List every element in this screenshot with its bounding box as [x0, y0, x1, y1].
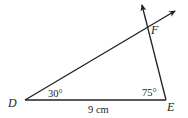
angle-label-e: 75°: [142, 87, 157, 98]
side-length-label-de: 9 cm: [88, 104, 109, 115]
vertex-label-d: D: [7, 96, 17, 110]
ray-ef: [142, 5, 166, 100]
vertex-label-e: E: [166, 100, 175, 114]
triangle-diagram: D E F 30° 75° 9 cm: [0, 0, 188, 118]
angle-label-d: 30°: [48, 88, 63, 99]
vertex-label-f: F: [150, 23, 159, 37]
